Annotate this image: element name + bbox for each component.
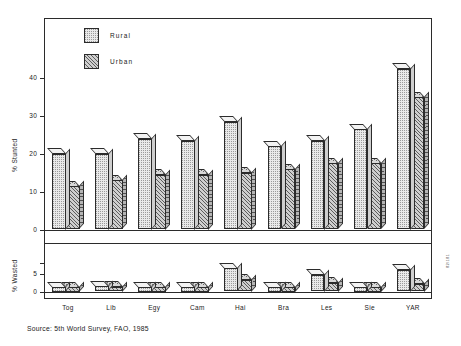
figure-code: 82/181 (445, 254, 450, 268)
y-axis-stunted (44, 18, 45, 243)
bar-side-face (281, 141, 286, 230)
bar-wasted-rural-Egy (138, 287, 152, 292)
bar-front-face (311, 275, 325, 292)
bar-front-face (397, 270, 411, 292)
bar-side-face (208, 169, 213, 229)
bar-front-face (268, 146, 282, 229)
bar-front-face (181, 287, 195, 292)
bar-front-face (354, 129, 368, 229)
bar-front-face (354, 287, 368, 292)
bar-front-face (397, 69, 411, 230)
bar-stunted-rural-Egy (138, 139, 152, 230)
x-axis-label-YAR: YAR (406, 304, 420, 311)
bar-front-face (268, 287, 282, 292)
bar-stunted-rural-Lib (95, 154, 109, 230)
x-axis-label-Lib: Lib (106, 304, 116, 311)
source-caption: Source: 5th World Survey, FAO, 1985 (27, 325, 149, 332)
bar-front-face (224, 122, 238, 230)
bar-stunted-rural-Tog (52, 154, 66, 230)
legend-label-rural: Rural (110, 32, 131, 39)
y-tick-label-stunted-40: 40 (0, 75, 37, 82)
x-axis-label-Egy: Egy (148, 304, 160, 311)
bar-front-face (95, 154, 109, 230)
x-axis-label-Hai: Hai (235, 304, 246, 311)
bar-stunted-rural-Cam (181, 141, 195, 230)
bar-stunted-rural-Sie (354, 129, 368, 229)
bar-side-face (410, 63, 415, 229)
legend-label-urban: Urban (110, 58, 133, 65)
bar-side-face (194, 135, 199, 229)
bar-wasted-rural-Tog (52, 287, 66, 292)
bar-wasted-rural-Cam (181, 287, 195, 292)
y-tick-wasted-upper (40, 263, 45, 264)
y-tick-label-stunted-20: 20 (0, 151, 37, 158)
x-axis-label-Tog: Tog (62, 304, 73, 311)
bar-stunted-rural-Bra (268, 146, 282, 229)
legend-item-rural: Rural (84, 27, 133, 44)
bar-front-face (138, 287, 152, 292)
bar-wasted-rural-YAR (397, 270, 411, 292)
bar-front-face (311, 141, 325, 230)
bar-front-face (138, 139, 152, 230)
x-axis-label-Les: Les (321, 304, 332, 311)
bar-wasted-rural-Sie (354, 287, 368, 292)
bar-side-face (151, 133, 156, 229)
legend: Rural Urban (84, 27, 133, 79)
y-tick-label-wasted-5: 5 (0, 270, 37, 277)
y-tick-label-stunted-30: 30 (0, 113, 37, 120)
y-tick-stunted-30 (40, 116, 45, 117)
bar-stunted-rural-Les (311, 141, 325, 230)
y-tick-stunted-40 (40, 78, 45, 79)
bar-side-face (108, 148, 113, 229)
y-tick-stunted-10 (40, 192, 45, 193)
bar-stunted-rural-YAR (397, 69, 411, 230)
baseline-wasted (44, 292, 432, 293)
bar-side-face (237, 116, 242, 229)
bar-front-face (95, 286, 109, 291)
legend-swatch-urban (84, 54, 99, 69)
bar-side-face (65, 148, 70, 229)
bar-side-face (424, 92, 429, 230)
x-axis-label-Sie: Sie (365, 304, 375, 311)
x-axis-label-Cam: Cam (190, 304, 205, 311)
bar-side-face (295, 164, 300, 230)
x-axis-label-Bra: Bra (278, 304, 289, 311)
figure-root: % Stunted % Wasted Rural Urban 010203040… (0, 0, 461, 346)
legend-swatch-rural (84, 28, 99, 43)
legend-item-urban: Urban (84, 53, 133, 70)
baseline-stunted (44, 230, 432, 231)
bar-front-face (52, 154, 66, 230)
bar-side-face (324, 135, 329, 229)
bar-side-face (367, 124, 372, 230)
bar-wasted-rural-Les (311, 275, 325, 292)
bar-front-face (181, 141, 195, 230)
bar-wasted-rural-Lib (95, 286, 109, 291)
bar-wasted-rural-Hai (224, 268, 238, 291)
bar-side-face (165, 169, 170, 229)
bar-side-face (338, 158, 343, 230)
bar-front-face (224, 268, 238, 291)
y-tick-wasted-0 (40, 292, 45, 293)
y-tick-stunted-20 (40, 154, 45, 155)
y-tick-label-stunted-0: 0 (0, 226, 37, 233)
y-tick-stunted-0 (40, 230, 45, 231)
bar-side-face (122, 175, 127, 230)
bar-side-face (381, 158, 386, 230)
y-tick-wasted-5 (40, 274, 45, 275)
panel-divider (44, 243, 432, 244)
y-tick-label-stunted-10: 10 (0, 188, 37, 195)
bar-front-face (52, 287, 66, 292)
bar-wasted-rural-Bra (268, 287, 282, 292)
bar-stunted-rural-Hai (224, 122, 238, 230)
bar-side-face (251, 167, 256, 229)
bar-side-face (79, 181, 84, 230)
y-tick-label-wasted-0: 0 (0, 288, 37, 295)
